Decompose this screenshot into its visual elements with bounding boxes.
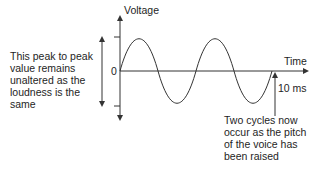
bottom-annotation: Two cycles now occur as the pitch of the… xyxy=(224,114,306,162)
zero-label: 0 xyxy=(111,65,117,77)
period-marker-label: 10 ms xyxy=(278,82,307,94)
left-annotation: This peak to peak value remains unaltere… xyxy=(10,50,93,110)
y-axis-label: Voltage xyxy=(124,4,159,16)
x-axis-label: Time xyxy=(284,55,307,67)
